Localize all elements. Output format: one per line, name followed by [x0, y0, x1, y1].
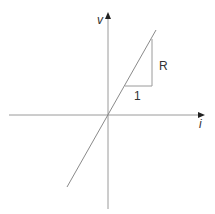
characteristic-line	[67, 30, 156, 187]
diagram-graphics	[0, 0, 215, 214]
v-axis-arrowhead-icon	[105, 12, 111, 19]
i-axis-label: i	[199, 118, 202, 130]
slope-rise-label: R	[159, 60, 168, 72]
v-axis-label: v	[97, 14, 103, 26]
vi-characteristic-diagram: v i R 1	[0, 0, 215, 214]
slope-run-label: 1	[134, 90, 141, 102]
